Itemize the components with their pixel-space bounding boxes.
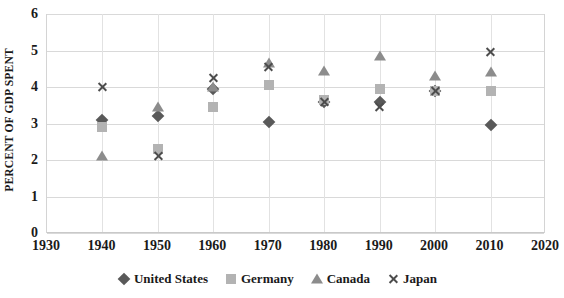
legend-item-germany[interactable]: Germany: [225, 272, 294, 286]
x-tick-label-2020: 2020: [517, 238, 564, 254]
x-tick-label-1940: 1940: [73, 238, 129, 254]
data-point-canada-2010: [485, 67, 497, 77]
data-point-japan-1940: [97, 82, 108, 93]
x-axis-line: [47, 232, 544, 233]
data-point-canada-2000: [429, 71, 441, 81]
x-tick-label-1980: 1980: [295, 238, 351, 254]
chart-legend: United StatesGermanyCanadaJapan: [0, 268, 555, 290]
y-tick-label-3: 3: [16, 117, 38, 131]
data-point-japan-2000: [430, 85, 441, 96]
legend-item-canada[interactable]: Canada: [311, 272, 370, 286]
square-marker-icon: [225, 273, 237, 285]
gridline-y-3: [47, 124, 544, 125]
legend-glyph: [226, 274, 236, 284]
data-point-japan-1950: [152, 151, 163, 162]
gridline-y-0: [47, 233, 544, 234]
gridline-y-5: [47, 51, 544, 52]
legend-label: Germany: [241, 272, 294, 286]
data-point-japan-1990: [374, 102, 385, 113]
legend-label: Japan: [403, 272, 437, 286]
data-point-united-states-1970: [262, 115, 275, 128]
data-point-canada-1950: [152, 102, 164, 112]
gridline-x-1980: [324, 14, 325, 233]
data-point-germany-1960: [208, 102, 218, 112]
legend-glyph: [388, 274, 399, 285]
gridline-x-2000: [435, 14, 436, 233]
gridline-x-1990: [380, 14, 381, 233]
gridline-x-1960: [213, 14, 214, 233]
x-tick-label-2000: 2000: [406, 238, 462, 254]
data-point-germany-1990: [375, 84, 385, 94]
gridline-y-1: [47, 197, 544, 198]
gridline-y-2: [47, 160, 544, 161]
data-point-canada-1940: [96, 151, 108, 161]
plot-area: [46, 14, 545, 233]
data-point-germany-1940: [97, 122, 107, 132]
y-tick-label-1: 1: [16, 190, 38, 204]
gridline-x-1950: [158, 14, 159, 233]
y-tick-label-2: 2: [16, 153, 38, 167]
x-tick-label-2010: 2010: [462, 238, 518, 254]
triangle-marker-icon: [311, 273, 323, 285]
data-point-japan-1980: [319, 96, 330, 107]
data-point-united-states-1950: [152, 110, 165, 123]
x-tick-label-1970: 1970: [240, 238, 296, 254]
legend-label: Canada: [327, 272, 370, 286]
cross-marker-icon: [387, 273, 399, 285]
gridline-y-4: [47, 87, 544, 88]
data-point-japan-1960: [208, 72, 219, 83]
x-tick-label-1950: 1950: [129, 238, 185, 254]
y-tick-label-6: 6: [16, 7, 38, 21]
legend-item-united-states[interactable]: United States: [118, 272, 208, 286]
data-point-japan-2010: [485, 47, 496, 58]
legend-glyph: [311, 274, 323, 284]
y-tick-label-5: 5: [16, 44, 38, 58]
data-point-canada-1980: [318, 65, 330, 75]
legend-glyph: [118, 273, 131, 286]
diamond-marker-icon: [118, 273, 130, 285]
data-point-japan-1970: [263, 61, 274, 72]
y-tick-label-4: 4: [16, 80, 38, 94]
data-point-germany-2010: [486, 86, 496, 96]
legend-label: United States: [134, 272, 208, 286]
data-point-united-states-2010: [484, 119, 497, 132]
data-point-germany-1970: [264, 80, 274, 90]
x-tick-label-1990: 1990: [351, 238, 407, 254]
legend-item-japan[interactable]: Japan: [387, 272, 437, 286]
gridline-y-6: [47, 14, 544, 15]
x-tick-label-1930: 1930: [18, 238, 74, 254]
x-tick-label-1960: 1960: [184, 238, 240, 254]
data-point-canada-1990: [374, 50, 386, 60]
